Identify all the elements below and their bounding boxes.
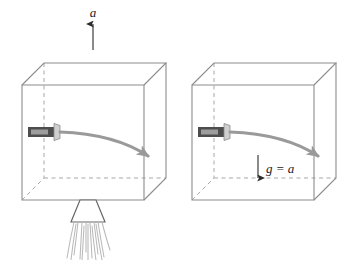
equivalence-principle-figure: a (0, 0, 342, 260)
acceleration-label: a (90, 5, 97, 20)
flashlight-grip-band (31, 130, 48, 135)
gravity-label: g = a (266, 161, 295, 176)
flashlight-grip-band (201, 130, 218, 135)
